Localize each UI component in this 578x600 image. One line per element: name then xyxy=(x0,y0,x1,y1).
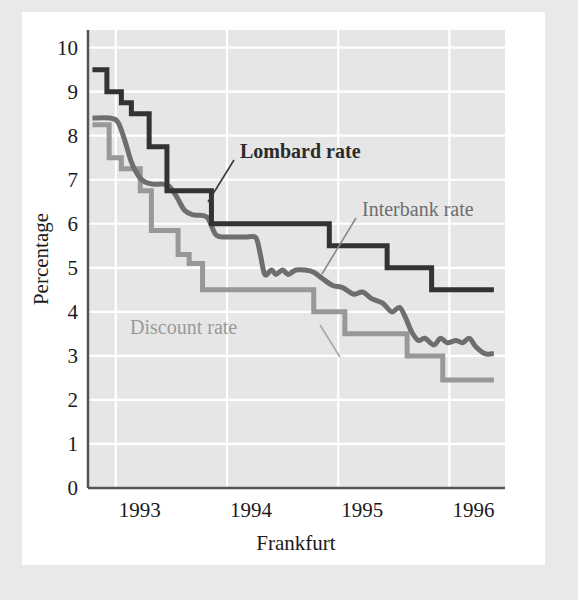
y-tick-label: 8 xyxy=(68,124,79,148)
x-axis-title: Frankfurt xyxy=(256,531,335,555)
interest-rate-line-chart: 012345678910 1993199419951996 Lombard ra… xyxy=(22,12,545,565)
y-tick-label: 0 xyxy=(68,476,79,500)
y-axis-title: Percentage xyxy=(29,213,53,305)
y-tick-label: 10 xyxy=(57,36,78,60)
plot-background xyxy=(88,30,505,488)
y-tick-label: 3 xyxy=(68,344,79,368)
y-tick-label: 7 xyxy=(68,168,79,192)
y-tick-label: 6 xyxy=(68,212,79,236)
x-tick-label: 1996 xyxy=(452,498,494,522)
y-tick-label: 1 xyxy=(68,432,79,456)
y-tick-label: 4 xyxy=(68,300,79,324)
x-tick-label: 1993 xyxy=(119,498,161,522)
annotation-discount-rate: Discount rate xyxy=(130,316,237,338)
y-tick-labels: 012345678910 xyxy=(57,36,79,500)
figure-card: 012345678910 1993199419951996 Lombard ra… xyxy=(22,12,545,565)
x-tick-label: 1994 xyxy=(230,498,273,522)
x-tick-labels: 1993199419951996 xyxy=(119,498,495,522)
y-tick-label: 9 xyxy=(68,80,79,104)
chart-figure: 012345678910 1993199419951996 Lombard ra… xyxy=(22,12,545,565)
x-tick-label: 1995 xyxy=(341,498,383,522)
page-root: 012345678910 1993199419951996 Lombard ra… xyxy=(0,0,578,600)
y-tick-label: 2 xyxy=(68,388,79,412)
y-tick-label: 5 xyxy=(68,256,79,280)
annotation-interbank-rate: Interbank rate xyxy=(362,198,474,220)
annotation-lombard-rate: Lombard rate xyxy=(240,140,361,162)
